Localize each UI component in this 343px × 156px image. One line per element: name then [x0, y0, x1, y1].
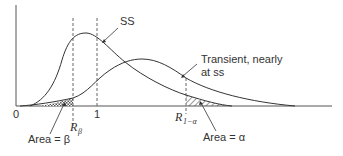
ss-label: SS	[120, 15, 135, 27]
r-beta-subscript: β	[77, 127, 82, 136]
area-beta-leader	[50, 104, 64, 134]
area-beta-label: Area = β	[28, 133, 70, 145]
transient-leader	[183, 64, 197, 76]
tick-one: 1	[94, 108, 100, 120]
r-beta-label: R	[69, 120, 78, 134]
distribution-diagram: SS Transient, nearly at ss 0 1 R β R 1−α…	[0, 0, 343, 156]
transient-label-line2: at ss	[201, 66, 225, 78]
r-alpha-subscript: 1−α	[183, 117, 197, 126]
ss-leader	[104, 28, 118, 41]
transient-label-line1: Transient, nearly	[201, 53, 283, 65]
area-alpha-leader	[201, 103, 216, 131]
tick-zero: 0	[13, 108, 19, 120]
area-alpha-label: Area = α	[203, 131, 246, 143]
r-alpha-label: R	[174, 110, 183, 124]
